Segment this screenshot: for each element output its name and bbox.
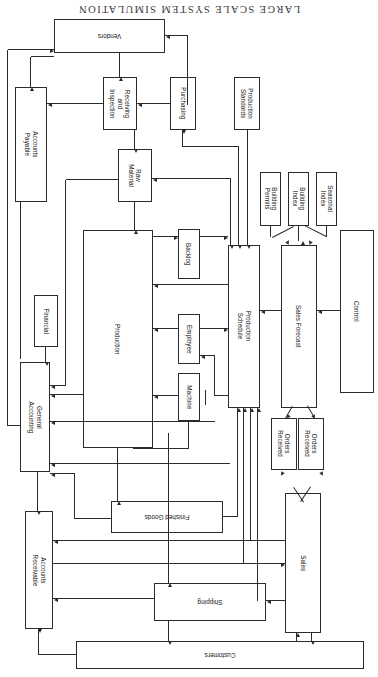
edge-arrow	[201, 355, 205, 359]
edge-line	[311, 633, 312, 641]
node-machine: Machine	[178, 373, 200, 421]
node-raw-material: Raw Material	[118, 149, 152, 202]
edge-line	[133, 448, 189, 449]
edge-arrow	[45, 362, 49, 366]
node-orders-received-1: Orders Received	[298, 418, 324, 470]
edge-line	[47, 103, 103, 104]
edge-line	[153, 284, 228, 285]
edge-line	[8, 49, 54, 50]
edge-line	[134, 202, 135, 230]
edge-line	[117, 448, 118, 501]
edge-line	[187, 36, 188, 105]
edge-arrow	[51, 385, 55, 389]
edge-arrow	[168, 641, 172, 645]
edge-line	[305, 225, 327, 237]
edge-arrow	[154, 328, 158, 332]
edge-line	[272, 226, 294, 238]
edge-arrow	[267, 600, 271, 604]
edge-line	[53, 598, 154, 599]
node-receiving-and-inspection: Receiving and Inspection	[103, 77, 137, 130]
edge-arrow	[37, 511, 41, 515]
edge-arrow	[296, 633, 300, 637]
rotated-figure-layer: LARGE SCALE SYSTEM SIMULATION Customers …	[0, 0, 378, 677]
edge-arrow	[54, 598, 58, 602]
edge-arrow	[154, 395, 158, 399]
edge-arrow	[261, 310, 265, 314]
edge-arrow	[50, 49, 54, 53]
edge-arrow	[134, 149, 138, 153]
node-accounts-receivable: Accounts Receivable	[25, 511, 53, 629]
edge-arrow	[168, 583, 172, 587]
node-orders-received-2: Orders Received	[271, 418, 297, 470]
node-customers: Customers	[76, 641, 364, 669]
node-employee: Employee	[178, 314, 200, 364]
node-production-schedule: Production Schedule	[228, 245, 260, 408]
edge-line	[30, 57, 31, 87]
edge-arrow	[138, 103, 142, 107]
edge-line	[168, 433, 169, 501]
edge-arrow	[230, 245, 234, 249]
node-sales: Sales	[285, 493, 321, 633]
edge-arrow	[154, 284, 158, 288]
edge-arrow	[134, 230, 138, 234]
edge-arrow	[279, 471, 285, 477]
edge-arrow	[224, 328, 228, 332]
figure-canvas: LARGE SCALE SYSTEM SIMULATION Customers …	[0, 0, 378, 677]
edge-line	[50, 421, 215, 422]
node-building-permits: Building Permits	[260, 172, 281, 226]
edge-arrow	[51, 394, 55, 398]
edge-arrow	[250, 408, 254, 412]
edge-line	[257, 408, 258, 601]
node-finished-goods: Finished Goods	[111, 501, 223, 533]
edge-line	[223, 516, 238, 517]
node-production: Production	[83, 230, 153, 448]
edge-arrow	[243, 408, 247, 412]
edge-arrow	[51, 463, 55, 467]
edge-arrow	[51, 421, 55, 425]
edge-arrow	[38, 629, 42, 633]
edge-arrow	[166, 35, 170, 39]
edge-line	[205, 390, 206, 405]
edge-line	[247, 130, 248, 245]
edge-line	[238, 147, 239, 245]
edge-line	[65, 180, 66, 386]
edge-line	[134, 130, 135, 149]
edge-arrow	[224, 236, 228, 240]
edge-arrow	[281, 563, 285, 567]
edge-line	[214, 356, 215, 396]
node-seasonal-index: Seasonal Index	[316, 172, 337, 226]
edge-arrow	[311, 641, 315, 645]
edge-arrow	[51, 473, 55, 477]
edge-line	[183, 146, 239, 147]
edge-line	[298, 226, 299, 241]
edge-line	[152, 178, 231, 179]
edge-line	[237, 408, 238, 517]
node-accounts-payable: Accounts Payable	[15, 87, 47, 202]
edge-line	[74, 474, 75, 519]
edge-line	[215, 395, 228, 396]
edge-arrow	[119, 77, 123, 81]
edge-arrow	[117, 501, 121, 505]
edge-line	[230, 179, 231, 245]
edge-arrow	[30, 87, 34, 91]
edge-line	[188, 421, 189, 449]
edge-line	[39, 654, 76, 655]
edge-arrow	[319, 471, 325, 477]
figure-title: LARGE SCALE SYSTEM SIMULATION	[56, 4, 322, 15]
edge-line	[50, 463, 230, 464]
edge-arrow	[318, 310, 322, 314]
node-building-index: Building Index	[288, 172, 309, 226]
edge-arrow	[237, 408, 241, 412]
edge-line	[53, 563, 285, 564]
node-general-accounting: General Accounting	[20, 362, 50, 472]
edge-line	[75, 518, 111, 519]
edge-arrow	[238, 245, 242, 249]
edge-line	[270, 226, 271, 237]
edge-line	[8, 425, 20, 426]
edge-line	[45, 347, 46, 362]
edge-line	[7, 50, 8, 426]
edge-line	[119, 53, 120, 77]
edge-arrow	[257, 408, 261, 412]
edge-arrow	[301, 241, 305, 245]
edge-arrow	[247, 245, 251, 249]
